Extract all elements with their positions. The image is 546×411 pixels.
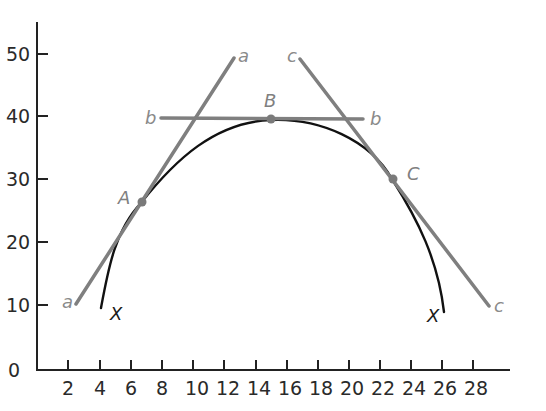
line-a-end-label: a (238, 45, 249, 66)
line-c-start-label: c (287, 45, 297, 66)
x-tick-label: 26 (433, 377, 457, 399)
curve-x-right-label: X (426, 305, 440, 326)
point-b-label: B (264, 90, 276, 111)
curve-x (101, 120, 444, 312)
x-tick-label: 14 (247, 377, 271, 399)
line-b-start-label: b (145, 107, 156, 128)
x-tick-label: 18 (309, 377, 333, 399)
y-tick-label: 50 (6, 43, 30, 65)
point-a-marker (138, 198, 147, 207)
x-tick-labels: 2 4 6 8 10 12 14 16 18 20 22 24 26 28 (62, 377, 488, 399)
x-tick-label: 28 (464, 377, 488, 399)
y-tick-label: 0 (8, 359, 20, 381)
y-tick-labels: 0 10 20 30 40 50 (6, 43, 30, 381)
y-tick-label: 30 (6, 168, 30, 190)
point-a-label: A (117, 187, 130, 208)
y-ticks (37, 54, 48, 305)
y-tick-label: 40 (6, 105, 30, 127)
x-tick-label: 8 (156, 377, 168, 399)
x-tick-label: 10 (185, 377, 209, 399)
x-tick-label: 20 (340, 377, 364, 399)
line-a-start-label: a (62, 291, 73, 312)
x-ticks (68, 360, 473, 370)
point-c-marker (389, 175, 398, 184)
x-tick-label: 2 (62, 377, 74, 399)
x-tick-label: 4 (94, 377, 106, 399)
tangent-line-a (76, 58, 234, 304)
x-tick-label: 16 (278, 377, 302, 399)
tangent-line-b (161, 118, 363, 119)
y-tick-label: 20 (6, 231, 30, 253)
line-b-end-label: b (370, 108, 381, 129)
line-c-end-label: c (494, 295, 504, 316)
x-tick-label: 22 (371, 377, 395, 399)
point-b-marker (267, 115, 276, 124)
curve-x-left-label: X (109, 303, 123, 324)
x-tick-label: 6 (125, 377, 137, 399)
x-tick-label: 12 (216, 377, 240, 399)
point-c-label: C (407, 163, 420, 184)
x-tick-label: 24 (402, 377, 426, 399)
chart: 0 10 20 30 40 50 2 4 6 8 10 12 14 16 18 … (0, 0, 546, 411)
y-tick-label: 10 (6, 294, 30, 316)
